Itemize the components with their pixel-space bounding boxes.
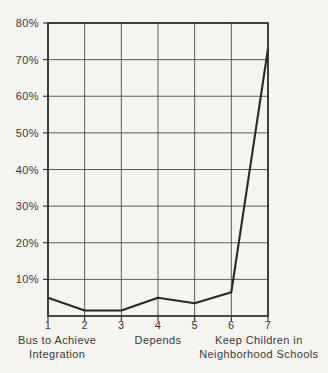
y-tick-label: 30% (16, 200, 39, 212)
y-tick-label: 40% (16, 164, 39, 176)
x-tick-label: 5 (191, 319, 198, 331)
y-tick-label: 10% (16, 273, 39, 285)
x-tick-label: 1 (45, 319, 52, 331)
x-tick-label: 3 (118, 319, 125, 331)
axis-annotation-line: Integration (29, 348, 85, 360)
scanned-survey-chart-page: 10%20%30%40%50%60%70%80%1234567Bus to Ac… (0, 0, 328, 373)
y-tick-label: 20% (16, 237, 39, 249)
x-tick-label: 6 (228, 319, 235, 331)
x-tick-label: 4 (155, 319, 162, 331)
y-tick-label: 70% (16, 54, 39, 66)
y-tick-label: 50% (16, 127, 39, 139)
axis-annotation-line: Depends (135, 334, 182, 346)
axis-annotation-line: Keep Children in (215, 334, 303, 346)
axis-annotation-line: Bus to Achieve (18, 334, 96, 346)
line-chart: 10%20%30%40%50%60%70%80%1234567Bus to Ac… (0, 0, 328, 373)
y-tick-label: 80% (16, 17, 39, 29)
x-tick-label: 2 (81, 319, 88, 331)
axis-annotation-line: Neighborhood Schools (199, 348, 318, 360)
chart-axis-labels: 10%20%30%40%50%60%70%80%1234567Bus to Ac… (16, 17, 319, 360)
x-tick-label: 7 (265, 319, 272, 331)
y-tick-label: 60% (16, 90, 39, 102)
